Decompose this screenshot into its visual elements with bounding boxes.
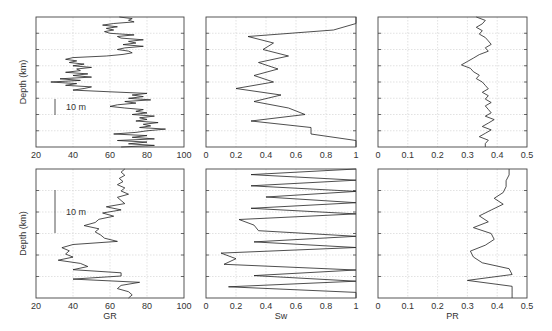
x-tick-label: 100: [176, 150, 191, 160]
x-tick-label: 0: [203, 301, 208, 311]
x-tick-label: 0.4: [260, 150, 273, 160]
x-tick-label: 0.5: [521, 301, 534, 311]
x-tick-label: 0.8: [320, 150, 333, 160]
x-tick-label: 0.3: [461, 301, 474, 311]
scale-bar-label: 10 m: [66, 102, 86, 112]
x-tick-label: 60: [105, 150, 115, 160]
x-tick-label: 0.1: [402, 150, 415, 160]
x-axis-label: PR: [446, 311, 459, 321]
x-tick-label: 0.2: [431, 150, 444, 160]
x-tick-label: 0.3: [461, 150, 474, 160]
scale-bar-label: 10 m: [66, 207, 86, 217]
panel-top-middle: 00.20.40.60.81: [203, 17, 358, 160]
x-tick-label: 20: [31, 301, 41, 311]
x-tick-label: 0.2: [230, 150, 243, 160]
x-tick-label: 0.6: [290, 301, 303, 311]
panel-bottom-middle: 00.20.40.60.81Sw: [203, 169, 358, 321]
x-tick-label: 0.4: [491, 150, 504, 160]
panel-bottom-right: 00.10.20.30.40.5PR: [375, 169, 533, 321]
x-tick-label: 40: [68, 301, 78, 311]
x-axis-label: GR: [103, 311, 117, 321]
x-tick-label: 100: [176, 301, 191, 311]
x-tick-label: 0.8: [320, 301, 333, 311]
x-tick-label: 80: [142, 301, 152, 311]
x-tick-label: 0.4: [491, 301, 504, 311]
x-tick-label: 1: [353, 150, 358, 160]
y-axis-label: Depth (km): [18, 211, 28, 256]
x-tick-label: 1: [353, 301, 358, 311]
well-log-figure: 20406080100Depth (km)10 m00.20.40.60.810…: [0, 0, 552, 331]
panel-top-left: 20406080100Depth (km)10 m: [18, 17, 192, 160]
x-tick-label: 0.4: [260, 301, 273, 311]
x-tick-label: 0: [375, 150, 380, 160]
x-tick-label: 40: [68, 150, 78, 160]
x-tick-label: 0.2: [431, 301, 444, 311]
y-axis-label: Depth (km): [18, 60, 28, 105]
x-tick-label: 0: [203, 150, 208, 160]
panel-top-right: 00.10.20.30.40.5: [375, 17, 533, 160]
panel-bottom-left: 20406080100GRDepth (km)10 m: [18, 169, 192, 321]
x-tick-label: 0.6: [290, 150, 303, 160]
x-axis-label: Sw: [275, 311, 288, 321]
x-tick-label: 60: [105, 301, 115, 311]
x-tick-label: 0.2: [230, 301, 243, 311]
x-tick-label: 0.1: [402, 301, 415, 311]
x-tick-label: 80: [142, 150, 152, 160]
x-tick-label: 0.5: [521, 150, 534, 160]
x-tick-label: 20: [31, 150, 41, 160]
x-tick-label: 0: [375, 301, 380, 311]
